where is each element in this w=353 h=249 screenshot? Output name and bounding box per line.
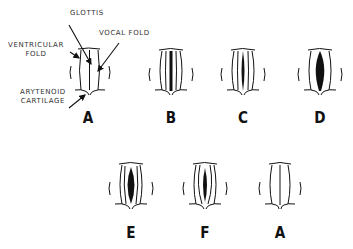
figure-letter-a: A (80, 108, 97, 127)
figure-letter-d: D (312, 108, 329, 127)
figure-letter-b: B (163, 108, 180, 127)
glottis-figure-e (106, 160, 156, 212)
glottis-figure-c (218, 46, 268, 98)
figure-letter-a-repeat: A (272, 223, 289, 242)
figure-letter-c: C (235, 108, 252, 127)
figure-letter-f: F (197, 223, 214, 242)
glottis-figure-b (146, 46, 196, 98)
glottis-figure-a-repeat (256, 160, 304, 212)
glottis-figure-f (180, 160, 230, 212)
glottis-figure-d (295, 46, 345, 98)
glottis-figure-a (68, 46, 112, 98)
figure-letter-e: E (123, 223, 140, 242)
